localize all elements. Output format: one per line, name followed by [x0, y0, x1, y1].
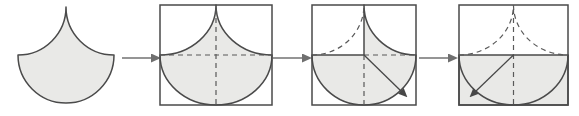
- panel-original-shape: [18, 7, 114, 103]
- panel-first-piece-moved: [312, 5, 416, 105]
- panel-inscribed-square: [160, 5, 272, 105]
- original-shape: [18, 7, 114, 103]
- dissection-diagram: [0, 0, 579, 116]
- removed-piece-dashed-arc: [312, 5, 364, 55]
- diagram-svg: [0, 0, 579, 116]
- filled-bottom-half-rect: [459, 55, 568, 105]
- panel-final-rectangle: [459, 5, 568, 105]
- removed-piece-dashed-arc-right: [514, 5, 569, 55]
- removed-piece-dashed-arc-left: [459, 5, 514, 55]
